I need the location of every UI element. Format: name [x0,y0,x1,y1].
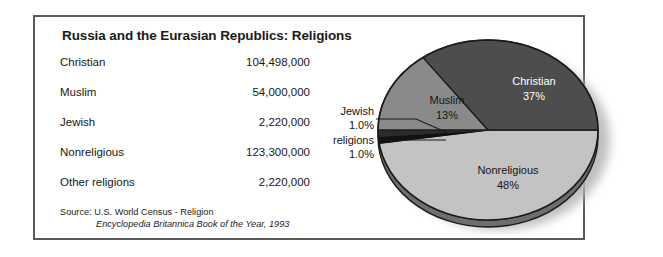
slice-label-muslim: Muslim [430,94,465,106]
callout-label-other: Other religions [330,134,374,146]
row-value: 104,498,000 [246,56,310,68]
row-label: Jewish [60,116,95,128]
religion-data-table: Christian 104,498,000 Muslim 54,000,000 … [60,56,310,206]
callout-label-jewish: Jewish [340,105,374,117]
slice-value-christian: 37% [523,90,545,102]
pie-chart: Christian 37% Muslim 13% Nonreligious 48… [330,22,650,237]
table-row: Christian 104,498,000 [60,56,310,86]
row-label: Christian [60,56,105,68]
slice-value-muslim: 13% [436,109,458,121]
table-row: Muslim 54,000,000 [60,86,310,116]
row-value: 2,220,000 [259,116,310,128]
source-line-secondary: Encyclopedia Britannica Book of the Year… [60,218,289,230]
page-title: Russia and the Eurasian Republics: Relig… [62,28,352,43]
slice-label-nonreligious: Nonreligious [477,164,539,176]
table-row: Nonreligious 123,300,000 [60,146,310,176]
row-value: 123,300,000 [246,146,310,158]
table-row: Other religions 2,220,000 [60,176,310,206]
table-row: Jewish 2,220,000 [60,116,310,146]
row-value: 2,220,000 [259,176,310,188]
source-line-primary: Source: U.S. World Census - Religion [60,206,289,218]
religions-pie-figure: Russia and the Eurasian Republics: Relig… [0,0,663,257]
row-label: Other religions [60,176,135,188]
callout-value-other: 1.0% [349,148,374,160]
source-note: Source: U.S. World Census - Religion Enc… [60,206,289,230]
slice-label-christian: Christian [512,75,555,87]
row-label: Muslim [60,86,96,98]
callout-value-jewish: 1.0% [349,119,374,131]
row-label: Nonreligious [60,146,124,158]
row-value: 54,000,000 [252,86,310,98]
pie-chart-svg: Christian 37% Muslim 13% Nonreligious 48… [330,22,650,237]
slice-value-nonreligious: 48% [497,179,519,191]
